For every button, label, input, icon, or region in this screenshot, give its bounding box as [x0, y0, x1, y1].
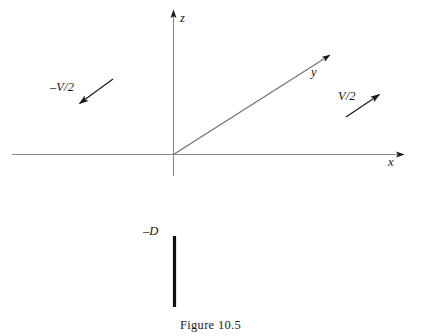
z-axis-label: z: [180, 12, 185, 25]
positive-half-v-label: V/2: [338, 90, 356, 103]
figure-drawing: [0, 0, 421, 336]
x-axis-label: x: [388, 156, 394, 169]
figure-caption: Figure 10.5: [0, 318, 421, 333]
figure-container: z y x –V/2 V/2 –D Figure 10.5: [0, 0, 421, 336]
y-axis-line: [174, 55, 331, 155]
y-axis-label: y: [311, 66, 317, 79]
plate-label: –D: [143, 225, 158, 238]
negative-half-v-vector: [80, 79, 114, 104]
negative-half-v-label: –V/2: [50, 81, 74, 94]
